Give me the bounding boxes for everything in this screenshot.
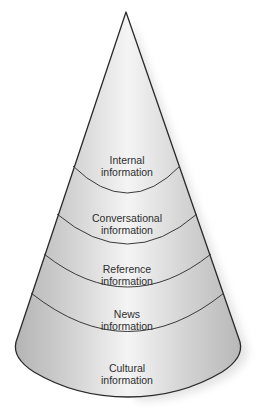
layer-label-line1: Cultural [47, 362, 207, 374]
cone-diagram: Internal information Conversational info… [0, 0, 260, 412]
layer-label-line1: News [47, 308, 207, 320]
cone-body [15, 12, 240, 397]
layer-label-line1: Reference [47, 263, 207, 275]
cone-graphic [0, 0, 260, 412]
layer-label-line1: Internal [47, 154, 207, 166]
layer-label-line2: information [47, 166, 207, 178]
layer-label-conversational: Conversational information [47, 212, 207, 236]
layer-label-line2: information [47, 275, 207, 287]
layer-label-line2: information [47, 320, 207, 332]
layer-label-line2: information [47, 374, 207, 386]
layer-label-internal: Internal information [47, 154, 207, 178]
layer-label-line2: information [47, 224, 207, 236]
layer-label-cultural: Cultural information [47, 362, 207, 386]
layer-label-reference: Reference information [47, 263, 207, 287]
layer-label-line1: Conversational [47, 212, 207, 224]
layer-label-news: News information [47, 308, 207, 332]
